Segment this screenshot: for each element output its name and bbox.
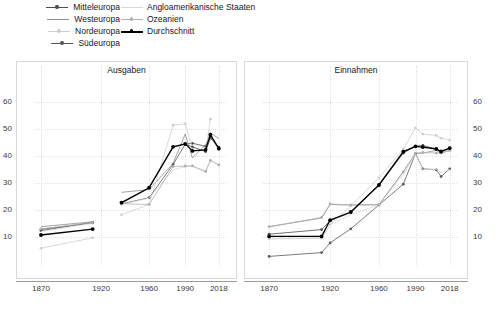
x-axis-tick-label: 1870 — [255, 284, 283, 293]
data-point — [349, 227, 352, 230]
legend-item-s-deuropa[interactable]: Südeuropa — [0, 39, 120, 48]
data-point — [320, 251, 323, 254]
data-point — [171, 145, 175, 149]
data-point — [209, 118, 212, 121]
series-line — [269, 146, 450, 236]
data-point — [434, 147, 438, 151]
x-axis-tick-label: 1960 — [135, 284, 163, 293]
data-point — [402, 183, 405, 186]
series-layer — [245, 62, 467, 278]
data-point — [320, 216, 323, 219]
legend-swatch-icon — [121, 3, 143, 12]
y-axis-tick-label: 10 — [0, 232, 12, 241]
y-axis-tick-label: 60 — [0, 97, 12, 106]
series-nordeuropa — [268, 127, 451, 241]
series-angloamerikanische-staaten — [41, 160, 219, 232]
data-point — [268, 255, 271, 258]
data-point — [191, 145, 194, 148]
legend-swatch-icon — [48, 27, 70, 36]
data-point — [120, 201, 124, 205]
legend-item-westeuropa[interactable]: Westeuropa — [0, 15, 120, 24]
data-point — [184, 165, 187, 168]
legend-swatch-icon — [121, 27, 143, 36]
data-point — [267, 235, 271, 239]
legend-swatch-icon — [46, 3, 68, 12]
legend-item-label: Ozeanien — [147, 15, 183, 24]
data-point — [448, 139, 451, 142]
data-point — [329, 203, 332, 206]
panel-einnahmen: Einnahmen — [244, 61, 468, 279]
legend-item-label: Südeuropa — [78, 39, 120, 48]
y-axis-tick-label: 20 — [473, 205, 487, 214]
x-axis-tick-label: 2018 — [436, 284, 464, 293]
y-axis-tick-label: 50 — [473, 124, 487, 133]
data-point — [209, 159, 212, 162]
legend-item-label: Durchschnitt — [147, 27, 194, 36]
data-point — [148, 203, 151, 206]
data-point — [440, 175, 443, 178]
legend-item-label: Nordeuropa — [75, 27, 120, 36]
data-point — [191, 149, 195, 153]
data-point — [91, 227, 95, 231]
data-point — [401, 150, 405, 154]
data-point — [91, 236, 94, 239]
legend-item-nordeuropa[interactable]: Nordeuropa — [0, 27, 120, 36]
data-point — [217, 147, 221, 151]
series-line — [41, 160, 219, 228]
legend-item-angloamerikanische-staaten[interactable]: Angloamerikanische Staaten — [121, 3, 255, 12]
data-point — [40, 227, 43, 230]
series-layer — [17, 62, 236, 278]
plot-area-ausgaben — [17, 62, 236, 278]
series-line — [41, 160, 219, 232]
data-point — [91, 221, 94, 224]
series-durchschnitt — [267, 144, 451, 238]
data-point — [349, 210, 353, 214]
data-point — [184, 122, 187, 125]
series-line — [41, 119, 210, 248]
x-axis-line — [244, 281, 468, 282]
data-point — [320, 235, 324, 239]
data-point — [421, 151, 424, 154]
legend-item-label: Mitteleuropa — [73, 3, 120, 12]
data-point — [421, 145, 425, 149]
data-point — [414, 127, 417, 130]
data-point — [217, 164, 220, 167]
data-point — [435, 134, 438, 137]
data-point — [414, 144, 418, 148]
legend-swatch-icon — [51, 39, 73, 48]
legend-item-durchschnitt[interactable]: Durchschnitt — [121, 27, 194, 36]
y-axis-tick-label: 50 — [0, 124, 12, 133]
series-line — [269, 146, 450, 235]
data-point — [204, 148, 208, 152]
legend-swatch-icon — [121, 15, 143, 24]
data-point — [439, 150, 443, 154]
data-point — [378, 203, 381, 206]
y-axis-tick-label: 40 — [473, 151, 487, 160]
data-point — [40, 247, 43, 250]
data-point — [378, 177, 381, 180]
data-point — [204, 170, 207, 173]
x-axis-tick-label: 1920 — [87, 284, 115, 293]
series-ozeanien — [40, 159, 221, 230]
data-point — [328, 218, 332, 222]
data-point — [268, 225, 271, 228]
legend-item-ozeanien[interactable]: Ozeanien — [121, 15, 183, 24]
x-axis-tick-label: 1990 — [171, 284, 199, 293]
chart-legend: MitteleuropaWesteuropaNordeuropaSüdeurop… — [0, 0, 500, 55]
series-line — [269, 150, 450, 226]
legend-item-mitteleuropa[interactable]: Mitteleuropa — [0, 3, 120, 12]
data-point — [421, 133, 424, 136]
data-point — [440, 137, 443, 140]
y-axis-tick-label: 30 — [473, 178, 487, 187]
y-axis-tick-label: 60 — [473, 97, 487, 106]
series-westeuropa — [269, 150, 450, 226]
panel-ausgaben: Ausgaben — [16, 61, 237, 279]
data-point — [147, 186, 151, 190]
x-axis-tick-label: 1960 — [365, 284, 393, 293]
legend-swatch-icon — [47, 15, 69, 24]
data-point — [414, 152, 417, 155]
data-point — [448, 146, 452, 150]
y-axis-tick-label: 10 — [473, 232, 487, 241]
series-ozeanien — [268, 149, 451, 228]
legend-item-label: Westeuropa — [74, 15, 120, 24]
